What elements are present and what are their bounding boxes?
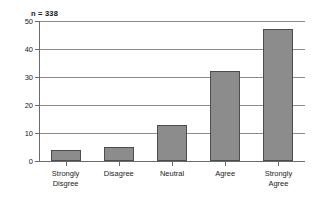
bar-slot <box>39 21 92 161</box>
x-axis-tick-label-line: Disgree <box>37 179 95 189</box>
bar <box>210 71 240 161</box>
y-axis-tick-mark <box>35 133 39 134</box>
y-axis-tick-mark <box>35 49 39 50</box>
x-axis-tick-label-line: Strongly <box>37 169 95 179</box>
x-axis-tick-mark <box>119 162 120 166</box>
x-axis-tick-label: Disagree <box>90 169 148 179</box>
sample-size-annotation: n = 338 <box>31 9 58 18</box>
x-axis-tick-label-line: Disagree <box>90 169 148 179</box>
bar <box>157 125 187 161</box>
bar-chart: n = 338 01020304050 StronglyDisgreeDisag… <box>0 0 314 200</box>
bar <box>51 150 81 161</box>
x-axis-tick-label: StronglyAgree <box>249 169 307 188</box>
bar-slot <box>199 21 252 161</box>
bar-slot <box>252 21 305 161</box>
bar-slot <box>92 21 145 161</box>
bars-layer <box>39 21 305 161</box>
y-axis-tick-label: 30 <box>1 73 33 82</box>
y-axis-tick-label: 10 <box>1 129 33 138</box>
y-axis-tick-labels: 01020304050 <box>0 0 33 200</box>
y-axis-tick-label: 40 <box>1 45 33 54</box>
y-axis-tick-mark <box>35 161 39 162</box>
x-axis-tick-mark <box>278 162 279 166</box>
y-axis-tick-label: 0 <box>1 157 33 166</box>
x-axis-tick-mark <box>66 162 67 166</box>
bar-slot <box>145 21 198 161</box>
bar <box>104 147 134 161</box>
y-axis-tick-label: 50 <box>1 17 33 26</box>
x-axis-tick-label-line: Strongly <box>249 169 307 179</box>
x-axis-tick-mark <box>225 162 226 166</box>
bar <box>263 29 293 161</box>
y-axis-tick-mark <box>35 77 39 78</box>
x-axis-tick-label-line: Agree <box>249 179 307 189</box>
x-axis-tick-label-line: Neutral <box>143 169 201 179</box>
x-axis-tick-mark <box>172 162 173 166</box>
x-axis-tick-label: Neutral <box>143 169 201 179</box>
x-axis-tick-label: Agree <box>196 169 254 179</box>
y-axis-tick-mark <box>35 105 39 106</box>
y-axis-tick-mark <box>35 21 39 22</box>
x-axis-tick-label: StronglyDisgree <box>37 169 95 188</box>
x-axis-tick-label-line: Agree <box>196 169 254 179</box>
y-axis-tick-label: 20 <box>1 101 33 110</box>
